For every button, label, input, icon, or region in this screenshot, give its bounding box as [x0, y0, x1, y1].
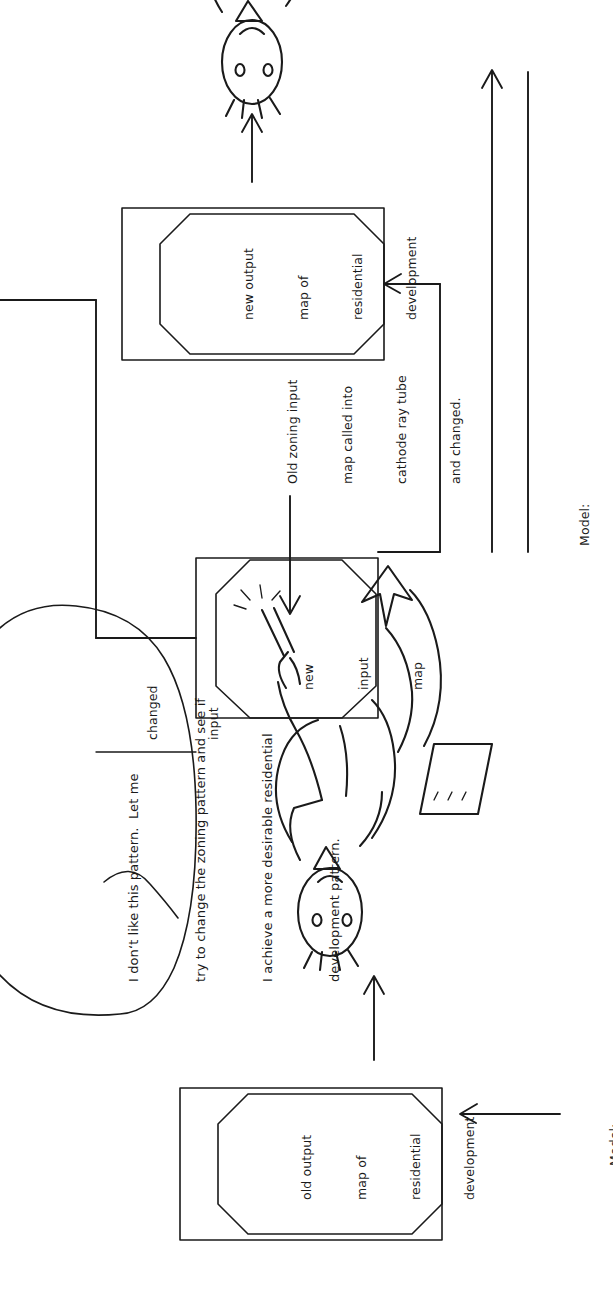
viewing-planner-figure — [208, 0, 306, 118]
speech-bubble-text: I don‘t like this pattern. Let me try to… — [78, 552, 391, 982]
new-input-box-label: new input map — [264, 657, 463, 690]
diagram-canvas: old output map of residential developmen… — [0, 0, 613, 1312]
crt-note-annotation: Old zoning input map called into cathode… — [248, 375, 502, 484]
old-output-box-label: old output map of residential developmen… — [262, 1116, 516, 1200]
new-output-box-label: new output map of residential developmen… — [204, 236, 458, 320]
changed-input-label: changed input — [108, 685, 259, 740]
model-new-annotation: Model: output map equals f (new input ma… — [540, 452, 613, 547]
model-old-annotation: Model: output map equals f (old input ma… — [570, 1053, 613, 1166]
